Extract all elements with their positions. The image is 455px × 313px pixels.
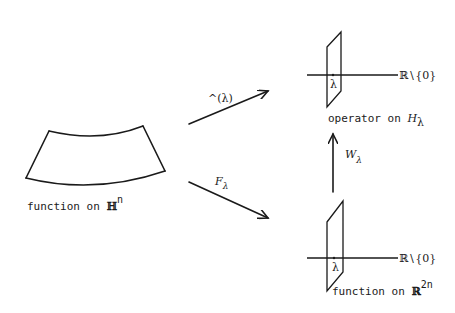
top-axis-point <box>332 74 334 76</box>
top-plane <box>307 32 398 107</box>
left-caption: function on ℍn <box>27 194 123 213</box>
top-lambda-label: λ <box>330 78 337 91</box>
heisenberg-patch <box>26 126 165 185</box>
weyl-arrow-label: Wλ <box>345 148 362 165</box>
bottom-plane <box>307 201 398 291</box>
bottom-axis-label: ℝ∖{0} <box>399 252 436 265</box>
diagram-canvas: function on ℍn ^(λ) Fλ λ ℝ∖{0} operator … <box>0 0 455 313</box>
bottom-axis-point <box>333 257 335 259</box>
patch-top-edge <box>49 126 143 136</box>
top-axis-label: ℝ∖{0} <box>399 69 436 82</box>
top-caption: operator on Hλ <box>328 112 424 129</box>
fourier-arrow-label: ^(λ) <box>208 92 233 105</box>
f-lambda-arrow <box>189 182 268 218</box>
patch-left-edge <box>26 131 49 178</box>
patch-bottom-edge <box>26 171 165 185</box>
bottom-plane-sheet <box>327 201 343 291</box>
f-lambda-label: Fλ <box>214 175 228 191</box>
patch-right-edge <box>143 126 165 171</box>
top-plane-sheet <box>327 32 341 107</box>
bottom-caption: function on ℝ2n <box>332 279 433 298</box>
bottom-lambda-label: λ <box>332 261 339 274</box>
